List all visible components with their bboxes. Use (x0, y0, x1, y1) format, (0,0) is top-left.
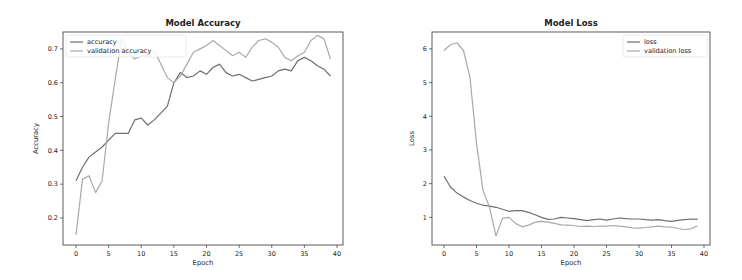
x-tick-label: 15 (537, 250, 545, 258)
x-axis-label: Epoch (193, 259, 214, 267)
x-tick-label: 40 (333, 250, 341, 258)
legend-label: accuracy (87, 38, 117, 46)
legend-label: loss (644, 38, 657, 46)
x-tick-label: 15 (170, 250, 178, 258)
legend: accuracyvalidation accuracy (66, 35, 186, 57)
y-tick-label: 1 (423, 214, 427, 222)
x-axis-label: Epoch (561, 259, 582, 267)
y-tick-label: 0.7 (48, 45, 58, 53)
x-tick-label: 25 (235, 250, 243, 258)
x-tick-label: 40 (700, 250, 708, 258)
chart-title: Model Accuracy (165, 18, 241, 28)
y-tick-label: 0.4 (48, 147, 58, 155)
y-axis-label: Accuracy (32, 123, 40, 154)
plot-area (63, 32, 343, 245)
y-tick-label: 5 (423, 79, 427, 87)
x-tick-label: 25 (602, 250, 610, 258)
x-tick-label: 30 (268, 250, 276, 258)
y-tick-label: 3 (423, 146, 427, 154)
x-tick-label: 35 (300, 250, 308, 258)
x-tick-label: 5 (474, 250, 478, 258)
x-axis: 0510152025303540Epoch (442, 245, 708, 267)
y-tick-label: 0.5 (48, 113, 58, 121)
y-tick-label: 6 (423, 45, 427, 53)
x-tick-label: 30 (635, 250, 643, 258)
y-tick-label: 4 (423, 113, 427, 121)
x-tick-label: 20 (570, 250, 578, 258)
legend-label: validation accuracy (87, 47, 151, 55)
chart-title: Model Loss (544, 18, 597, 28)
legend-label: validation loss (644, 47, 692, 55)
y-tick-label: 0.3 (48, 180, 58, 188)
y-axis: 123456Loss (408, 45, 432, 222)
x-tick-label: 20 (202, 250, 210, 258)
y-axis: 0.20.30.40.50.60.7Accuracy (32, 45, 63, 222)
loss-chart: Model Loss0510152025303540Epoch123456Los… (408, 18, 710, 267)
plot-area (432, 32, 710, 245)
y-tick-label: 0.2 (48, 214, 58, 222)
accuracy-chart: Model Accuracy0510152025303540Epoch0.20.… (32, 18, 343, 267)
x-tick-label: 10 (137, 250, 145, 258)
legend: lossvalidation loss (623, 35, 707, 57)
x-tick-label: 0 (442, 250, 446, 258)
figure-canvas: Model Accuracy0510152025303540Epoch0.20.… (0, 0, 742, 280)
x-tick-label: 5 (107, 250, 111, 258)
y-axis-label: Loss (408, 131, 416, 146)
x-tick-label: 0 (74, 250, 78, 258)
y-tick-label: 0.6 (48, 79, 58, 87)
x-tick-label: 10 (505, 250, 513, 258)
y-tick-label: 2 (423, 180, 427, 188)
x-tick-label: 35 (667, 250, 675, 258)
x-axis: 0510152025303540Epoch (74, 245, 341, 267)
